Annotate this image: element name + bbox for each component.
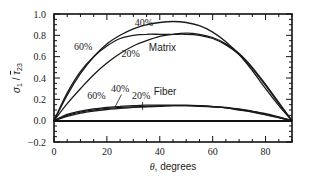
x-tick-label: 40 bbox=[155, 146, 165, 157]
chart: 020406080−0.20.00.20.40.60.81.0 MatrixFi… bbox=[0, 0, 310, 189]
y-axis-title: σ1 / τ23 bbox=[11, 63, 23, 93]
series-label: 60% bbox=[74, 41, 92, 52]
y-tick-label: 1.0 bbox=[34, 9, 47, 20]
annotations: MatrixFiber40%60%20%60%40%20% bbox=[74, 17, 177, 110]
leader-line bbox=[115, 95, 122, 108]
data-lines bbox=[54, 22, 292, 121]
series-label: 40% bbox=[111, 83, 129, 94]
x-tick-label: 0 bbox=[52, 146, 57, 157]
series-line bbox=[54, 106, 292, 121]
group-label: Fiber bbox=[154, 86, 177, 97]
y-tick-label: −0.2 bbox=[28, 137, 46, 148]
x-tick-label: 60 bbox=[208, 146, 218, 157]
y-tick-label: 0.8 bbox=[34, 30, 47, 41]
series-label: 40% bbox=[135, 17, 153, 28]
y-tick-label: 0.6 bbox=[34, 51, 47, 62]
x-tick-label: 20 bbox=[102, 146, 112, 157]
tick-labels: 020406080−0.20.00.20.40.60.81.0 bbox=[28, 9, 271, 158]
x-axis-title: θ, degrees bbox=[150, 161, 197, 172]
series-label: 20% bbox=[132, 90, 150, 101]
x-tick-label: 80 bbox=[261, 146, 271, 157]
series-label: 20% bbox=[122, 48, 140, 59]
y-tick-label: 0.0 bbox=[34, 115, 47, 126]
group-label: Matrix bbox=[149, 42, 176, 53]
series-label: 60% bbox=[87, 90, 105, 101]
y-tick-label: 0.4 bbox=[34, 73, 47, 84]
y-tick-label: 0.2 bbox=[34, 94, 47, 105]
